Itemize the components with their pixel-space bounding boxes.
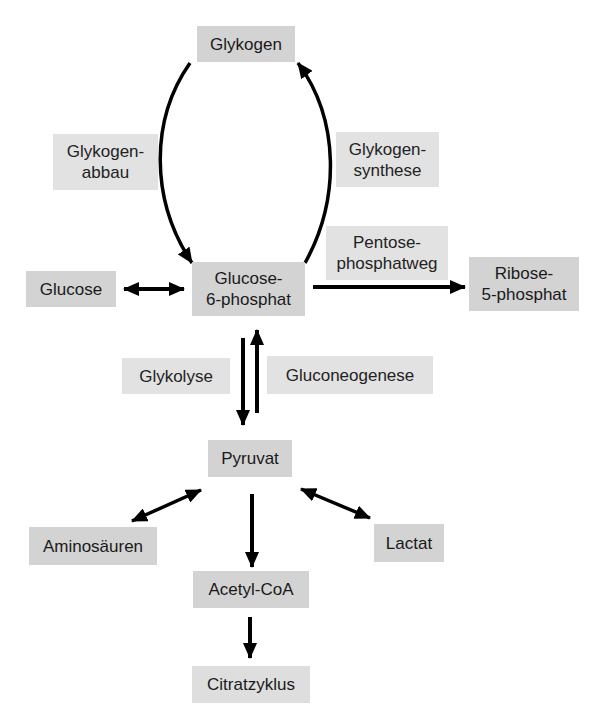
pathway-label-glykolyse: Glykolyse (122, 358, 230, 394)
node-glykogen-label: Glykogen (210, 34, 282, 55)
pathway-label-glykogenabbau: Glykogen- abbau (53, 134, 158, 190)
node-pyruvat: Pyruvat (208, 440, 292, 477)
pathway-label-glykogensynthese: Glykogen- synthese (336, 132, 439, 187)
pathway-label-glykogenabbau-text: Glykogen- abbau (67, 141, 144, 183)
arrow-glykogenabbau (160, 63, 192, 263)
arrow-pyruvat-aminosaeuren (132, 490, 201, 521)
node-aminosaeuren: Aminosäuren (29, 527, 157, 565)
node-lactat: Lactat (374, 524, 444, 562)
node-aminosaeuren-label: Aminosäuren (43, 536, 143, 557)
pathway-label-gluconeogenese: Gluconeogenese (267, 356, 433, 394)
node-lactat-label: Lactat (386, 533, 432, 554)
node-citratzyklus: Citratzyklus (192, 666, 310, 703)
arrow-pyruvat-lactat (301, 489, 370, 518)
node-glykogen: Glykogen (197, 26, 295, 62)
pathway-label-pentosephosphatweg-text: Pentose- phosphatweg (336, 232, 437, 274)
node-acetyl-coa: Acetyl-CoA (193, 571, 309, 608)
node-ribose-5-phosphat-label: Ribose- 5-phosphat (481, 263, 566, 305)
pathway-label-gluconeogenese-text: Gluconeogenese (286, 365, 415, 386)
node-glucose: Glucose (26, 271, 116, 307)
pathway-label-pentosephosphatweg: Pentose- phosphatweg (326, 226, 448, 280)
pathway-label-glykolyse-text: Glykolyse (139, 366, 213, 387)
node-acetyl-coa-label: Acetyl-CoA (208, 579, 293, 600)
node-pyruvat-label: Pyruvat (221, 448, 279, 469)
node-glucose-label: Glucose (40, 279, 102, 300)
node-citratzyklus-label: Citratzyklus (207, 674, 295, 695)
node-glucose-6-phosphat: Glucose- 6-phosphat (192, 262, 305, 316)
pathway-label-glykogensynthese-text: Glykogen- synthese (349, 139, 426, 181)
node-ribose-5-phosphat: Ribose- 5-phosphat (469, 257, 579, 311)
node-glucose-6-phosphat-label: Glucose- 6-phosphat (206, 268, 291, 310)
